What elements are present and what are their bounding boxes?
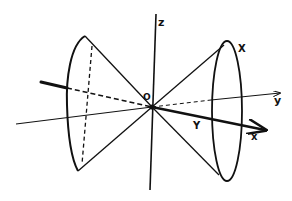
double-cone-diagram: z O X Y y x	[0, 0, 292, 201]
left-cone-base-visible	[67, 36, 85, 171]
left-cone-lower-generator	[78, 107, 152, 171]
origin-point	[149, 104, 154, 109]
x-axis-hidden	[67, 88, 152, 107]
right-cone-lower-generator	[152, 107, 219, 175]
x-axis-front	[152, 107, 265, 130]
point-Y-label: Y	[192, 120, 201, 131]
left-cone-base-hidden	[82, 46, 92, 164]
y-axis-hidden	[152, 100, 211, 107]
y-axis-label: y	[274, 94, 281, 107]
x-axis-label: x	[251, 131, 258, 142]
left-cone-upper-generator	[85, 36, 152, 107]
right-cone-base-ellipse	[212, 41, 242, 181]
z-axis	[150, 14, 156, 190]
origin-label: O	[143, 92, 151, 102]
y-axis-right	[211, 93, 280, 100]
y-axis-left	[16, 107, 152, 124]
point-X-label: X	[238, 43, 246, 54]
x-axis-back	[41, 82, 67, 88]
z-axis-label: z	[158, 16, 164, 29]
